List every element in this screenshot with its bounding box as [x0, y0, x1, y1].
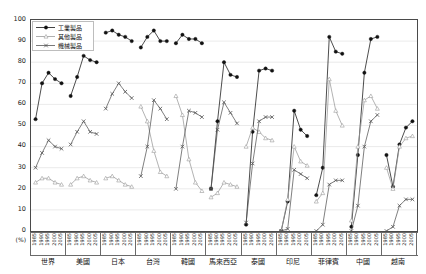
- legend-label: 工業製品: [57, 23, 82, 32]
- y-axis-tick-100: 100: [0, 16, 26, 23]
- legend-item-工業製品[interactable]: 工業製品: [35, 23, 91, 32]
- x-group-越南: 19851990199520002005越南: [381, 232, 416, 274]
- chart-canvas: [31, 20, 417, 231]
- y-axis-tick-10: 10: [0, 206, 26, 213]
- series-馬來西亞-機械製品: [209, 100, 239, 190]
- x-tick-year: 2000: [332, 233, 337, 246]
- x-tick-year: 1995: [45, 233, 50, 246]
- legend-label: 其他製品: [57, 32, 82, 41]
- x-axis-band: 19851990199520002005世界198519901995200020…: [30, 232, 418, 274]
- x-tick-year: 1990: [109, 233, 114, 246]
- y-axis-tick-40: 40: [0, 142, 26, 149]
- x-group-中國: 19851990199520002005中國: [346, 232, 381, 274]
- x-tick-year: 1985: [32, 233, 37, 246]
- x-group-世界: 19851990199520002005世界: [30, 232, 65, 274]
- series-中國-工業製品: [350, 35, 379, 228]
- x-group-印尼: 19851990199520002005印尼: [276, 232, 311, 274]
- series-世界-其他製品: [34, 176, 64, 186]
- x-group-label: 美國: [65, 256, 100, 266]
- x-tick-year: 1990: [354, 233, 359, 246]
- x-tick-year: 2005: [198, 233, 203, 246]
- series-印尼-其他製品: [279, 145, 309, 231]
- x-group-label: 韓國: [170, 256, 205, 266]
- legend-marker-cross-x-icon: [35, 41, 57, 50]
- x-tick-year: 1990: [389, 233, 394, 246]
- series-泰國-其他製品: [244, 126, 274, 149]
- x-tick-year: 1985: [243, 233, 248, 246]
- x-group-台灣: 19851990199520002005台灣: [135, 232, 170, 274]
- legend-item-機械製品[interactable]: 機械製品: [35, 41, 91, 50]
- x-tick-year: 2005: [128, 233, 133, 246]
- y-axis-labels: 0102030405060708090100(%): [0, 0, 30, 274]
- x-group-label: 越南: [381, 256, 416, 266]
- x-tick-year: 2005: [339, 233, 344, 246]
- x-tick-year: 2000: [402, 233, 407, 246]
- x-tick-year: 2005: [58, 233, 63, 246]
- legend-item-其他製品[interactable]: 其他製品: [35, 32, 91, 41]
- x-tick-year: 2000: [262, 233, 267, 246]
- series-越南-機械製品: [385, 198, 415, 231]
- series-世界-工業製品: [34, 71, 63, 121]
- x-tick-year: 2000: [297, 233, 302, 246]
- x-group-label: 日本: [100, 256, 135, 266]
- x-group-馬來西亞: 19851990199520002005馬來西亞: [205, 232, 240, 274]
- y-axis-tick-50: 50: [0, 121, 26, 128]
- x-tick-year: 1995: [150, 233, 155, 246]
- x-tick-year: 2005: [409, 233, 414, 246]
- y-axis-tick-90: 90: [0, 37, 26, 44]
- x-tick-year: 2000: [122, 233, 127, 246]
- x-group-泰國: 19851990199520002005泰國: [241, 232, 276, 274]
- y-axis-tick-80: 80: [0, 58, 26, 65]
- x-group-separator: [416, 232, 417, 256]
- y-axis-tick-70: 70: [0, 79, 26, 86]
- x-group-韓國: 19851990199520002005韓國: [170, 232, 205, 274]
- x-tick-year: 1990: [284, 233, 289, 246]
- series-菲律賓-工業製品: [315, 35, 344, 197]
- series-馬來西亞-其他製品: [209, 180, 239, 198]
- legend-label: 機械製品: [57, 41, 82, 50]
- series-台灣-機械製品: [139, 98, 169, 178]
- series-美國-機械製品: [69, 119, 99, 146]
- series-台灣-工業製品: [139, 29, 168, 49]
- y-axis-tick-60: 60: [0, 100, 26, 107]
- x-group-label: 菲律賓: [311, 256, 346, 266]
- x-group-label: 世界: [30, 256, 65, 266]
- x-group-label: 中國: [346, 256, 381, 266]
- x-tick-year: 2005: [93, 233, 98, 246]
- series-韓國-其他製品: [174, 94, 204, 193]
- x-tick-year: 1990: [249, 233, 254, 246]
- x-tick-year: 1990: [39, 233, 44, 246]
- y-axis-tick-0: 0: [0, 227, 26, 234]
- series-韓國-工業製品: [174, 33, 203, 45]
- series-越南-其他製品: [384, 134, 414, 190]
- x-tick-year: 2005: [163, 233, 168, 246]
- x-group-label: 台灣: [135, 256, 170, 266]
- x-tick-year: 2005: [269, 233, 274, 246]
- x-tick-year: 2000: [87, 233, 92, 246]
- x-tick-year: 1985: [208, 233, 213, 246]
- x-tick-year: 2000: [52, 233, 57, 246]
- x-group-日本: 19851990199520002005日本: [100, 232, 135, 274]
- series-菲律賓-機械製品: [314, 179, 344, 231]
- x-tick-year: 1985: [172, 233, 177, 246]
- chart-figure: 0102030405060708090100(%) 工業製品其他製品機械製品 1…: [0, 0, 426, 274]
- series-美國-工業製品: [69, 54, 98, 97]
- x-group-label: 印尼: [276, 256, 311, 266]
- x-group-label: 泰國: [241, 256, 276, 266]
- x-tick-year: 1995: [220, 233, 225, 246]
- y-axis-tick-20: 20: [0, 185, 26, 192]
- series-印尼-機械製品: [279, 168, 309, 231]
- x-tick-year: 2005: [374, 233, 379, 246]
- x-tick-year: 1985: [102, 233, 107, 246]
- x-group-label: 馬來西亞: [205, 256, 240, 266]
- x-group-美國: 19851990199520002005美國: [65, 232, 100, 274]
- series-韓國-機械製品: [174, 109, 204, 191]
- x-tick-year: 1985: [137, 233, 142, 246]
- x-tick-year: 1990: [74, 233, 79, 246]
- series-越南-工業製品: [385, 120, 414, 189]
- x-group-菲律賓: 19851990199520002005菲律賓: [311, 232, 346, 274]
- x-tick-year: 1985: [67, 233, 72, 246]
- legend-marker-open-triangle-icon: [35, 32, 57, 41]
- x-tick-year: 1995: [326, 233, 331, 246]
- series-世界-機械製品: [34, 138, 64, 169]
